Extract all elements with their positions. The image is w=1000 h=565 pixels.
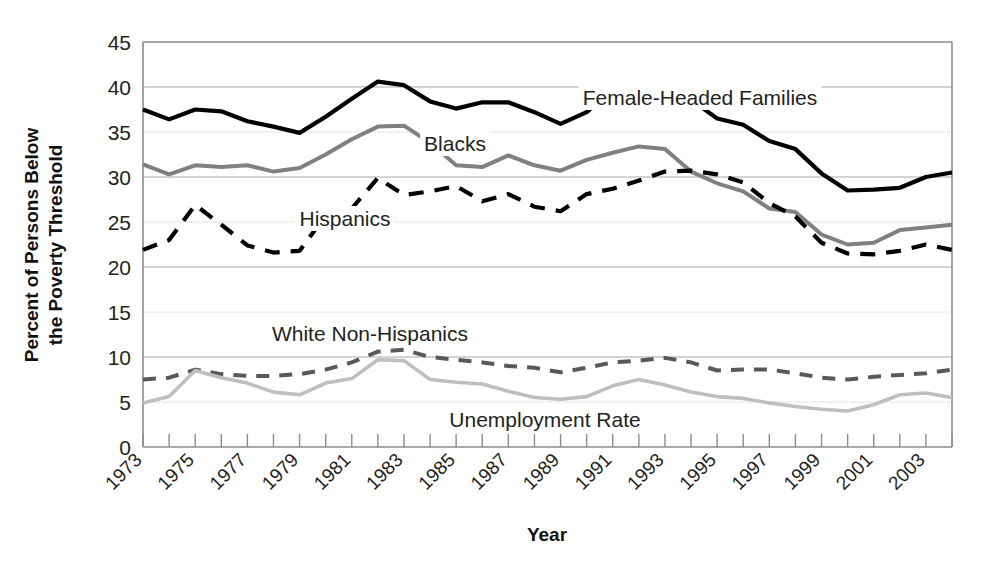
y-axis-title-line2: the Poverty Threshold — [45, 145, 66, 346]
y-tick-label-10: 10 — [108, 346, 131, 369]
x-tick-label-2003: 2003 — [884, 449, 929, 494]
series-label-female-headed-families: Female-Headed Families — [583, 86, 818, 109]
poverty-threshold-line-chart: 051015202530354045 197319751977197919811… — [0, 0, 1000, 565]
y-tick-label-30: 30 — [108, 166, 131, 189]
data-series-group — [143, 82, 952, 411]
x-axis-ticks — [143, 434, 952, 447]
gridlines-group — [143, 42, 952, 402]
y-axis-title-line1: Percent of Persons Below — [21, 128, 42, 363]
x-tick-label-1975: 1975 — [153, 449, 198, 494]
y-tick-label-25: 25 — [108, 211, 131, 234]
y-tick-label-5: 5 — [119, 391, 131, 414]
x-tick-label-2001: 2001 — [832, 449, 877, 494]
plot-frame — [143, 42, 952, 447]
x-tick-label-1973: 1973 — [101, 449, 146, 494]
x-tick-label-1985: 1985 — [414, 449, 459, 494]
x-tick-label-1987: 1987 — [466, 449, 511, 494]
x-tick-label-1991: 1991 — [571, 449, 616, 494]
y-tick-label-35: 35 — [108, 121, 131, 144]
chart-canvas: 051015202530354045 197319751977197919811… — [0, 0, 1000, 565]
series-line-hispanics — [143, 171, 952, 255]
x-axis-title: Year — [527, 524, 568, 545]
x-tick-label-1977: 1977 — [205, 449, 250, 494]
series-label-white-non-hispanics: White Non-Hispanics — [272, 322, 468, 345]
x-tick-label-1995: 1995 — [675, 449, 720, 494]
y-tick-label-40: 40 — [108, 76, 131, 99]
x-axis-tick-labels: 1973197519771979198119831985198719891991… — [101, 449, 929, 494]
x-tick-label-1979: 1979 — [258, 449, 303, 494]
series-line-unemployment-rate — [143, 360, 952, 411]
y-tick-label-15: 15 — [108, 301, 131, 324]
series-line-blacks — [143, 126, 952, 245]
x-tick-label-1981: 1981 — [310, 449, 355, 494]
x-tick-label-1989: 1989 — [519, 449, 564, 494]
series-label-blacks: Blacks — [424, 132, 486, 155]
series-line-white-non-hispanics — [143, 350, 952, 380]
series-label-hispanics: Hispanics — [299, 207, 390, 230]
y-tick-label-45: 45 — [108, 31, 131, 54]
y-axis-tick-labels: 051015202530354045 — [108, 31, 131, 459]
x-tick-label-1999: 1999 — [780, 449, 825, 494]
series-label-unemployment-rate: Unemployment Rate — [449, 408, 640, 431]
series-line-female-headed-families — [143, 82, 952, 191]
x-tick-label-1993: 1993 — [623, 449, 668, 494]
x-tick-label-1983: 1983 — [362, 449, 407, 494]
x-tick-label-1997: 1997 — [727, 449, 772, 494]
y-tick-label-20: 20 — [108, 256, 131, 279]
